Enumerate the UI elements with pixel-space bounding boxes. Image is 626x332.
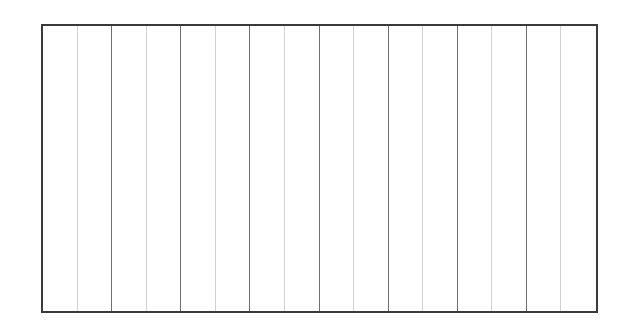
major-grid-line — [180, 26, 181, 311]
minor-grid-line — [146, 26, 147, 311]
minor-grid-line — [215, 26, 216, 311]
major-grid-line — [457, 26, 458, 311]
major-grid-line — [388, 26, 389, 311]
major-grid-line — [249, 26, 250, 311]
minor-grid-line — [284, 26, 285, 311]
minor-grid-line — [77, 26, 78, 311]
grid-frame — [41, 24, 598, 313]
major-grid-line — [526, 26, 527, 311]
minor-grid-line — [353, 26, 354, 311]
major-grid-line — [319, 26, 320, 311]
major-grid-line — [111, 26, 112, 311]
minor-grid-line — [560, 26, 561, 311]
minor-grid-line — [491, 26, 492, 311]
minor-grid-line — [422, 26, 423, 311]
